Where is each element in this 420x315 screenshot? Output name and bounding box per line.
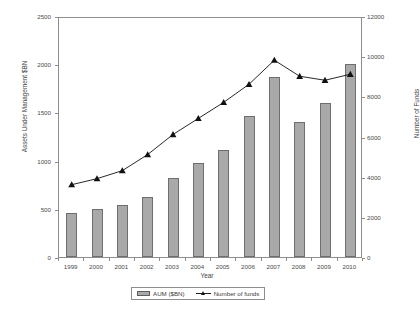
line-marker-swatch-icon [196, 291, 211, 297]
bar-2000 [92, 209, 103, 257]
y-left-tick-label: 500 [23, 207, 51, 213]
funds-marker-2005 [220, 99, 227, 105]
y-right-tick-label: 0 [367, 255, 399, 261]
x-tick-mark [83, 258, 84, 261]
x-tick-mark [58, 258, 59, 261]
legend-entry-funds: Number of funds [196, 290, 260, 297]
funds-marker-2002 [144, 151, 151, 157]
funds-marker-2003 [170, 131, 177, 137]
y-left-tick-label: 1500 [23, 110, 51, 116]
y-right-tick-label: 4000 [367, 175, 399, 181]
y-left-tick-label: 0 [23, 255, 51, 261]
y-right-tick-label: 10000 [367, 54, 399, 60]
y-left-tick-mark [55, 113, 58, 114]
bar-2001 [117, 205, 128, 257]
funds-marker-2001 [119, 167, 126, 173]
x-tick-mark [210, 258, 211, 261]
y-left-tick-mark [55, 162, 58, 163]
legend-entry-aum: AUM ($BN) [137, 290, 185, 297]
bar-2006 [244, 116, 255, 257]
bar-2008 [294, 122, 305, 257]
x-tick-mark [185, 258, 186, 261]
legend-label-aum: AUM ($BN) [153, 290, 185, 297]
funds-marker-2008 [296, 73, 303, 79]
funds-marker-2007 [271, 57, 278, 63]
bar-2010 [345, 64, 356, 257]
y-right-tick-mark [362, 218, 365, 219]
y-right-tick-mark [362, 138, 365, 139]
y-right-tick-label: 2000 [367, 215, 399, 221]
funds-line-path [72, 60, 351, 185]
x-axis-title: Year [0, 272, 414, 279]
bar-2005 [218, 150, 229, 257]
y-left-tick-label: 2000 [23, 62, 51, 68]
x-tick-label-2010: 2010 [332, 264, 366, 270]
x-tick-mark [286, 258, 287, 261]
bar-2002 [142, 197, 153, 257]
line-series-layer [59, 18, 363, 259]
x-tick-mark [261, 258, 262, 261]
plot-area [58, 17, 362, 258]
x-tick-mark [159, 258, 160, 261]
y-right-tick-label: 8000 [367, 94, 399, 100]
bar-2009 [320, 103, 331, 257]
y-left-tick-mark [55, 210, 58, 211]
x-tick-mark [311, 258, 312, 261]
x-tick-mark [337, 258, 338, 261]
y-axis-right-title: Number of Funds [413, 54, 420, 174]
bar-2004 [193, 163, 204, 257]
y-right-tick-label: 12000 [367, 14, 399, 20]
bar-swatch-icon [137, 291, 150, 296]
x-tick-mark [235, 258, 236, 261]
funds-marker-1999 [68, 181, 75, 187]
bar-1999 [66, 213, 77, 257]
chart-legend: AUM ($BN) Number of funds [131, 287, 265, 300]
x-tick-mark [362, 258, 363, 261]
y-right-tick-mark [362, 57, 365, 58]
y-right-tick-mark [362, 178, 365, 179]
funds-marker-2004 [195, 115, 202, 121]
y-right-tick-label: 6000 [367, 135, 399, 141]
bar-2007 [269, 77, 280, 257]
legend-label-funds: Number of funds [214, 290, 260, 297]
y-right-tick-mark [362, 17, 365, 18]
y-left-tick-label: 1000 [23, 159, 51, 165]
x-tick-mark [134, 258, 135, 261]
funds-marker-2009 [322, 77, 329, 83]
bar-2003 [168, 178, 179, 257]
y-left-tick-mark [55, 17, 58, 18]
x-tick-mark [109, 258, 110, 261]
y-left-tick-mark [55, 65, 58, 66]
y-left-tick-label: 2500 [23, 14, 51, 20]
funds-marker-2006 [246, 81, 253, 87]
funds-marker-2000 [94, 175, 101, 181]
y-right-tick-mark [362, 97, 365, 98]
